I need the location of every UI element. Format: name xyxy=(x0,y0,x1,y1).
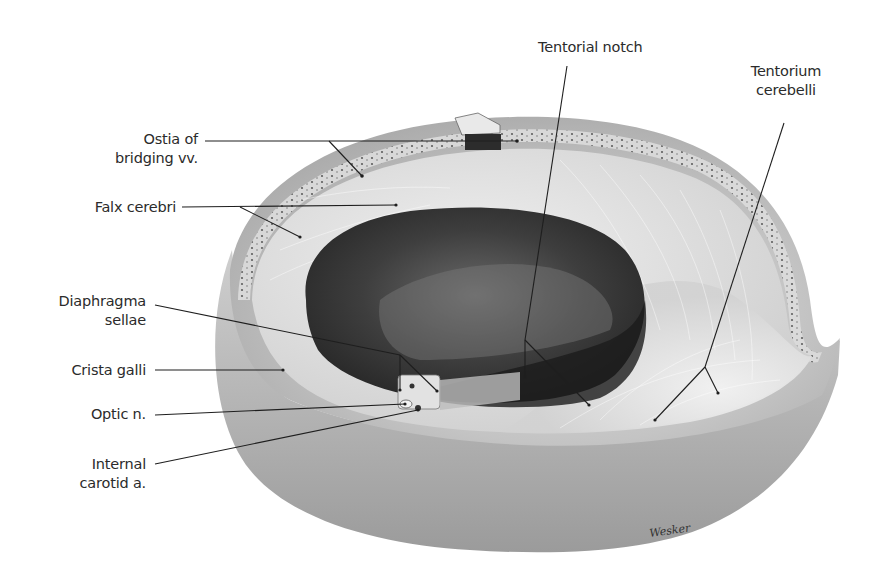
label-line: cerebelli xyxy=(738,81,834,100)
label-diaphragma-sellae: Diaphragma sellae xyxy=(30,292,146,330)
label-line: Diaphragma xyxy=(30,292,146,311)
label-line: Optic n. xyxy=(30,405,146,424)
label-line: Ostia of xyxy=(90,130,198,149)
label-ostia-bridging-veins: Ostia of bridging vv. xyxy=(90,130,198,168)
label-line: carotid a. xyxy=(30,474,146,493)
label-tentorial-notch: Tentorial notch xyxy=(538,38,642,57)
label-internal-carotid-artery: Internal carotid a. xyxy=(30,455,146,493)
label-line: bridging vv. xyxy=(90,149,198,168)
label-line: Tentorium xyxy=(738,62,834,81)
label-line: Internal xyxy=(30,455,146,474)
label-line: sellae xyxy=(30,311,146,330)
label-line: Tentorial notch xyxy=(538,38,642,57)
label-crista-galli: Crista galli xyxy=(30,361,146,380)
label-falx-cerebri: Falx cerebri xyxy=(60,198,176,217)
label-optic-nerve: Optic n. xyxy=(30,405,146,424)
label-line: Falx cerebri xyxy=(60,198,176,217)
label-tentorium-cerebelli: Tentorium cerebelli xyxy=(738,62,834,100)
label-line: Crista galli xyxy=(30,361,146,380)
